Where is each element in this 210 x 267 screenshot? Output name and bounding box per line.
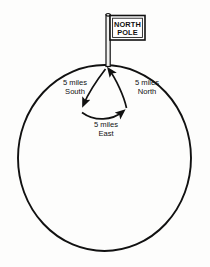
east-leg-arrow: [82, 112, 123, 119]
north-label-line1: 5 miles: [135, 78, 159, 87]
south-label-line1: 5 miles: [63, 78, 87, 87]
north-leg-arrow: [109, 70, 127, 109]
diagram-canvas: NORTH POLE 5 miles South 5 miles North 5…: [0, 0, 210, 267]
east-label-line1: 5 miles: [94, 120, 118, 129]
east-label-line2: East: [98, 129, 114, 138]
north-label-line2: North: [138, 87, 157, 96]
flag-label-line2: POLE: [117, 28, 138, 37]
south-label-line2: South: [65, 87, 85, 96]
latitude-circle: [18, 65, 191, 251]
